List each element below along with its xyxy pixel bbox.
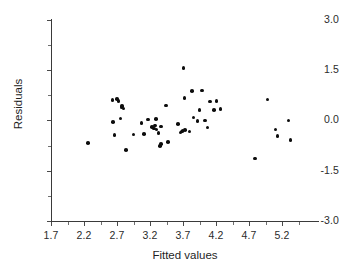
scatter-point	[253, 157, 257, 161]
scatter-point	[117, 99, 121, 103]
x-axis-tick-label: 4.2	[198, 229, 234, 241]
scatter-point	[219, 107, 223, 111]
scatter-point	[153, 124, 157, 128]
y-axis-tick-label: -1.5	[297, 164, 339, 176]
scatter-point	[111, 98, 115, 102]
scatter-point	[113, 133, 117, 137]
scatter-point	[200, 89, 204, 93]
y-axis-tick-label: 1.5	[297, 63, 339, 75]
x-axis-minor-tick	[233, 222, 234, 225]
x-axis-tick-label: 2.7	[99, 229, 135, 241]
y-axis-minor-tick	[48, 146, 51, 147]
scatter-point	[206, 126, 210, 130]
x-axis-line	[51, 221, 319, 222]
x-axis-tick	[216, 222, 217, 226]
y-axis-tick	[47, 120, 51, 121]
y-axis-title: Residuals	[12, 54, 24, 154]
scatter-point	[183, 128, 187, 132]
x-axis-minor-tick	[266, 222, 267, 225]
scatter-point	[140, 121, 144, 125]
scatter-point	[86, 141, 90, 145]
scatter-point	[119, 117, 123, 121]
y-axis-tick-label: 3.0	[297, 13, 339, 25]
y-axis-tick	[47, 20, 51, 21]
x-axis-minor-tick	[299, 222, 300, 225]
x-axis-tick	[51, 222, 52, 226]
scatter-point	[192, 116, 196, 120]
y-axis-tick-label: 0.0	[297, 113, 339, 125]
scatter-point	[164, 104, 168, 108]
scatter-point	[122, 107, 126, 111]
scatter-point	[146, 118, 150, 122]
scatter-point	[190, 89, 194, 93]
y-axis-tick-label: -3.0	[297, 214, 339, 226]
x-axis-tick	[183, 222, 184, 226]
scatter-point	[208, 100, 212, 104]
x-axis-tick-label: 4.7	[231, 229, 267, 241]
y-axis-minor-tick	[48, 95, 51, 96]
plot-area: -3.0-1.50.01.53.0 1.72.22.73.23.74.24.75…	[0, 0, 339, 273]
x-axis-tick	[282, 222, 283, 226]
x-axis-tick-label: 3.2	[132, 229, 168, 241]
scatter-point	[132, 133, 136, 137]
x-axis-minor-tick	[167, 222, 168, 225]
x-axis-tick	[150, 222, 151, 226]
scatter-point	[188, 130, 192, 134]
y-axis-minor-tick	[48, 45, 51, 46]
scatter-point	[159, 125, 163, 129]
scatter-point	[276, 134, 280, 138]
scatter-point	[159, 142, 163, 146]
x-axis-tick	[249, 222, 250, 226]
x-axis-tick-label: 3.7	[165, 229, 201, 241]
x-axis-minor-tick	[200, 222, 201, 225]
x-axis-tick	[117, 222, 118, 226]
scatter-point	[176, 122, 180, 126]
x-axis-minor-tick	[134, 222, 135, 225]
scatter-point	[182, 66, 186, 70]
scatter-point	[287, 119, 291, 123]
x-axis-tick-label: 1.7	[33, 229, 69, 241]
y-axis-line	[51, 19, 52, 222]
y-axis-tick	[47, 70, 51, 71]
residuals-vs-fitted-scatter-chart: -3.0-1.50.01.53.0 1.72.22.73.23.74.24.75…	[0, 0, 339, 273]
x-axis-title: Fitted values	[51, 249, 319, 261]
x-axis-minor-tick	[101, 222, 102, 225]
scatter-point	[157, 131, 161, 135]
scatter-point	[198, 108, 202, 112]
scatter-point	[274, 128, 278, 132]
x-axis-minor-tick	[68, 222, 69, 225]
scatter-point	[215, 99, 219, 103]
x-axis-tick	[84, 222, 85, 226]
scatter-point	[196, 119, 200, 123]
scatter-point	[111, 120, 115, 124]
y-axis-tick	[47, 171, 51, 172]
x-axis-tick-label: 5.2	[264, 229, 300, 241]
scatter-point	[124, 148, 128, 152]
scatter-point	[289, 138, 293, 142]
scatter-point	[142, 132, 146, 136]
scatter-point	[166, 140, 170, 144]
scatter-point	[154, 117, 158, 121]
scatter-point	[203, 119, 207, 123]
x-axis-tick-label: 2.2	[66, 229, 102, 241]
y-axis-minor-tick	[48, 196, 51, 197]
scatter-point	[183, 96, 187, 100]
scatter-point	[266, 98, 270, 102]
scatter-point	[212, 108, 216, 112]
